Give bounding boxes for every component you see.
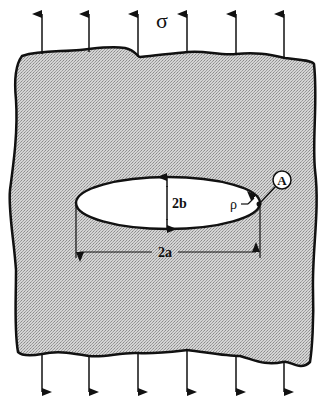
point-a-label: A — [277, 173, 287, 188]
stress-label: σ — [156, 8, 168, 33]
minor-axis-label: 2b — [172, 196, 187, 211]
radius-label: ρ — [230, 197, 237, 212]
diagram-canvas: σ 2b 2a ρ A — [0, 0, 327, 402]
major-axis-label: 2a — [158, 245, 172, 260]
